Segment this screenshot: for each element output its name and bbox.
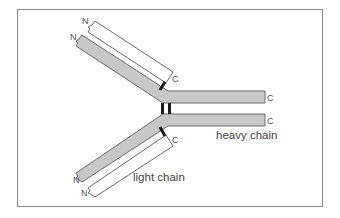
c-terminus-heavy-upper: C	[267, 93, 274, 103]
disulfide-bond-heavy-heavy-2	[168, 103, 171, 114]
n-terminus-heavy-upper: N	[70, 32, 77, 42]
c-terminus-heavy-lower: C	[267, 116, 274, 126]
light-chain-label: light chain	[133, 171, 185, 183]
c-terminus-light-lower: C	[172, 135, 179, 145]
c-terminus-light-upper: C	[172, 74, 179, 84]
n-terminus-heavy-lower: N	[73, 175, 80, 185]
antibody-diagram: N N C C C C N N heavy chain light chain	[0, 0, 340, 218]
n-terminus-light-upper: N	[82, 16, 89, 26]
heavy-chain-label: heavy chain	[216, 129, 277, 141]
n-terminus-light-lower: N	[81, 188, 88, 198]
disulfide-bond-heavy-heavy-1	[161, 103, 164, 114]
